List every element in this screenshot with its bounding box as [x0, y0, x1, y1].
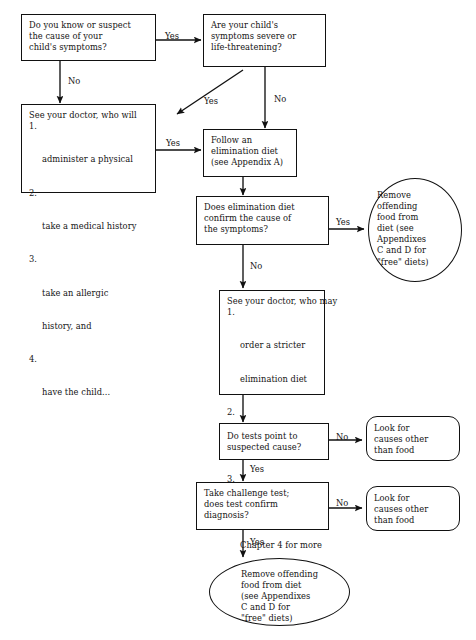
flowchart-canvas: Do you know or suspect the cause of your…	[0, 0, 476, 640]
node-line: food from diet	[241, 580, 341, 591]
list-text: order a stricter	[240, 340, 318, 351]
node-line: symptoms severe or	[211, 31, 319, 42]
edge-label-severe-no: No	[274, 94, 286, 104]
edge-label-tests-point-yes: Yes	[250, 464, 264, 474]
list-text: elimination diet	[240, 374, 318, 385]
node-look-for-other-causes-1[interactable]: Look for causes other than food	[366, 416, 460, 461]
node-line: causes other	[374, 504, 453, 515]
node-do-tests-point-to-cause[interactable]: Do tests point to suspected cause?	[219, 423, 329, 460]
node-line: confirm the cause of	[204, 213, 322, 224]
list-item: 1. administer a physical	[29, 121, 149, 188]
node-see-doctor-who-may[interactable]: See your doctor, who may 1. order a stri…	[219, 290, 325, 395]
node-line: "free" diets)	[241, 613, 341, 624]
node-line: causes other	[374, 434, 453, 445]
list-number: 2.	[29, 188, 37, 199]
node-line: child's symptoms?	[29, 42, 149, 53]
node-does-diet-confirm-cause[interactable]: Does elimination diet confirm the cause …	[196, 196, 329, 245]
node-symptoms-severe[interactable]: Are your child's symptoms severe or life…	[203, 14, 326, 67]
list-number: 1.	[227, 307, 235, 318]
node-do-you-know-cause[interactable]: Do you know or suspect the cause of your…	[21, 14, 156, 61]
list-text: have the child...	[42, 387, 149, 398]
node-heading: See your doctor, who may	[227, 296, 318, 307]
node-line: than food	[374, 445, 453, 456]
list-text: take a medical history	[42, 221, 149, 232]
node-heading: See your doctor, who will	[29, 110, 149, 121]
node-list: 1. administer a physical 2. take a medic…	[29, 121, 149, 421]
node-line: Look for	[374, 423, 453, 434]
node-line: Follow an	[211, 135, 290, 146]
edge-label-challenge-yes: Yes	[250, 537, 264, 547]
node-line: Are your child's	[211, 20, 319, 31]
node-line: Do you know or suspect	[29, 20, 149, 31]
edge-label-know-cause-yes: Yes	[165, 31, 179, 41]
node-line: Look for	[374, 493, 453, 504]
edge-label-tests-point-no: No	[336, 432, 348, 442]
node-line: the cause of your	[29, 31, 149, 42]
list-item: 2. take a medical history	[29, 188, 149, 255]
node-line: (see Appendixes	[241, 591, 341, 602]
list-number: 2.	[227, 407, 235, 418]
node-line: offending	[377, 201, 453, 212]
node-look-for-other-causes-2[interactable]: Look for causes other than food	[366, 486, 460, 531]
list-number: 4.	[29, 354, 37, 365]
node-line: suspected cause?	[227, 442, 322, 453]
node-line: does test confirm	[204, 499, 322, 510]
list-text: administer a physical	[42, 154, 149, 165]
node-line: food from	[377, 212, 453, 223]
edge-label-severe-yes: Yes	[204, 96, 218, 106]
node-line: Appendixes	[377, 234, 453, 245]
edge-label-know-cause-no: No	[68, 76, 80, 86]
list-item: 3. take an allergic history, and	[29, 254, 149, 354]
list-item: 4. have the child...	[29, 354, 149, 421]
edge-label-diet-confirm-yes: Yes	[336, 217, 350, 227]
node-remove-offending-food-top[interactable]: Remove offending food from diet (see App…	[368, 178, 462, 282]
node-line: Take challenge test;	[204, 488, 322, 499]
list-item: 1. order a stricter elimination diet	[227, 307, 318, 407]
node-line: diagnosis?	[204, 510, 322, 521]
node-line: Does elimination diet	[204, 202, 322, 213]
edge-label-challenge-no: No	[336, 498, 348, 508]
list-number: 3.	[29, 254, 37, 265]
node-line: Remove offending	[241, 569, 341, 580]
list-text: take an allergic	[42, 288, 149, 299]
node-line: Do tests point to	[227, 431, 322, 442]
edge-severe-yes	[177, 70, 243, 114]
node-remove-offending-food-bottom[interactable]: Remove offending food from diet (see App…	[209, 558, 350, 626]
node-take-challenge-test[interactable]: Take challenge test; does test confirm d…	[196, 482, 329, 530]
node-line: life-threatening?	[211, 42, 319, 53]
node-line: (see Appendix A)	[211, 157, 290, 168]
node-follow-elimination-diet[interactable]: Follow an elimination diet (see Appendix…	[203, 129, 297, 177]
node-line: diet (see	[377, 223, 453, 234]
node-see-doctor-who-will[interactable]: See your doctor, who will 1. administer …	[21, 104, 156, 193]
node-line: elimination diet	[211, 146, 290, 157]
node-line: C and D for	[241, 602, 341, 613]
edge-label-doctor-will-yes: Yes	[166, 138, 180, 148]
list-number: 1.	[29, 121, 37, 132]
edge-label-diet-confirm-no: No	[250, 261, 262, 271]
node-line: Remove	[377, 190, 453, 201]
node-line: the symptoms?	[204, 224, 322, 235]
node-line: than food	[374, 515, 453, 526]
node-line: "free" diets)	[377, 257, 453, 268]
list-text: history, and	[42, 321, 149, 332]
node-line: C and D for	[377, 245, 453, 256]
